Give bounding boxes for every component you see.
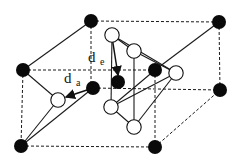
dashed-edge [21, 70, 23, 146]
white-atom-w-upper [127, 44, 141, 58]
white-atom-w-top [105, 28, 119, 42]
label-d-e-sub: e [100, 56, 105, 67]
d_e-arrow [112, 37, 118, 75]
black-atom-mid-center [148, 63, 162, 77]
label-d-a-sub: a [76, 77, 81, 88]
white-atom-w-right [169, 66, 183, 80]
dashed-edge [155, 90, 220, 147]
dashed-edge [219, 22, 220, 90]
black-atom-mid-left [16, 63, 30, 77]
solid-edge [21, 100, 58, 146]
white-atom-w-bottom [127, 120, 141, 134]
white-atom-w-mid [104, 100, 118, 114]
black-atoms [14, 14, 227, 154]
solid-edge [111, 35, 112, 107]
label-d-a-base: d [64, 70, 72, 86]
black-atom-inner [111, 75, 125, 89]
black-atom-top-back-left [84, 14, 98, 28]
black-atom-right-mid [213, 83, 227, 97]
white-atom-w-left [51, 93, 65, 107]
label-d-e-base: d [88, 49, 96, 65]
black-atom-front-center [86, 81, 100, 95]
crystal-structure-figure: d e d a [0, 0, 239, 165]
black-atom-top-back-right [212, 15, 226, 29]
black-atom-bottom-front [148, 140, 162, 154]
crystal-structure-svg: d e d a [0, 0, 239, 165]
black-atom-bottom-left [14, 139, 28, 153]
distance-labels: d e d a [64, 49, 105, 88]
solid-edge [112, 35, 176, 73]
dashed-edge [91, 21, 219, 22]
solid-edge [23, 21, 91, 70]
dashed-edge [93, 88, 220, 90]
dashed-edge [21, 146, 155, 147]
solid-edge [155, 22, 219, 70]
